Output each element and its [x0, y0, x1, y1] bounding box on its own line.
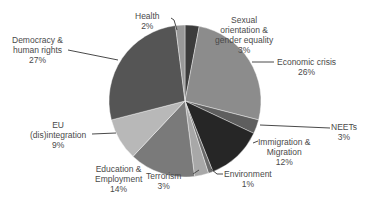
label-neets: NEETs3% — [331, 122, 357, 142]
label-environment: Environment1% — [224, 169, 272, 189]
label-eu: EU(dis)integration9% — [30, 120, 86, 150]
label-sexual-orientation: Sexualorientation &gender equality3% — [215, 15, 273, 55]
pie-chart — [0, 0, 368, 201]
label-terrorism: Terrorism3% — [146, 171, 181, 191]
label-economic-crisis: Economic crisis26% — [277, 57, 336, 77]
leader-neets — [260, 125, 330, 128]
leader-democracy — [68, 50, 118, 60]
label-democracy: Democracy &human rights27% — [12, 35, 63, 65]
label-immigration: Immigration &Migration12% — [258, 137, 310, 167]
label-health: Health2% — [135, 11, 160, 31]
label-education: Education &Employment14% — [95, 164, 142, 194]
leader-eu — [92, 133, 116, 134]
